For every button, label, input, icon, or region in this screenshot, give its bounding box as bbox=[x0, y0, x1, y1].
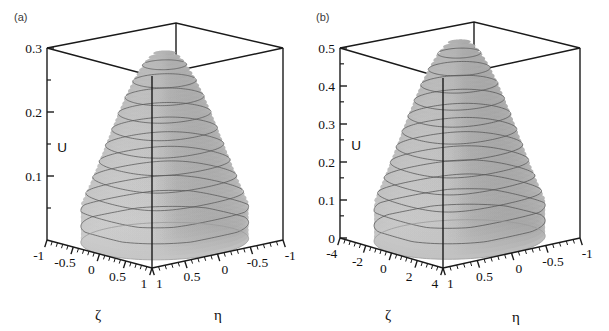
axis-tick-label: -1 bbox=[285, 248, 296, 263]
u-axis-label: U bbox=[57, 140, 67, 155]
axis-tick-label: 1 bbox=[140, 276, 147, 291]
svg-text:0.2: 0.2 bbox=[25, 105, 42, 120]
svg-text:0: 0 bbox=[328, 231, 335, 246]
axis-tick-label: 0 bbox=[88, 262, 95, 277]
panel-b-plot: 00.10.20.30.40.5U-4-2024ζ10.50-0.5-1η bbox=[304, 0, 609, 331]
axis-tick-label: 0 bbox=[221, 262, 228, 277]
axis-tick-label: 2 bbox=[406, 269, 413, 284]
axis-tick-label: -4 bbox=[326, 246, 337, 261]
svg-text:0.1: 0.1 bbox=[318, 193, 335, 208]
axis-tick-label: 0.5 bbox=[476, 269, 493, 284]
axis-tick-label: 0.5 bbox=[184, 269, 201, 284]
axis-tick-label: 1 bbox=[156, 276, 163, 291]
floor-axis-label: ζ bbox=[385, 307, 391, 323]
figure-root: (a) 0.10.20.3U-1-0.500.51ζ10.50-0.5-1η (… bbox=[0, 0, 609, 331]
svg-text:0.5: 0.5 bbox=[318, 41, 335, 56]
u-axis-label: U bbox=[351, 138, 361, 153]
svg-text:0.2: 0.2 bbox=[318, 155, 335, 170]
svg-text:0.3: 0.3 bbox=[25, 41, 42, 56]
axis-tick-label: -1 bbox=[33, 248, 44, 263]
svg-text:0.3: 0.3 bbox=[318, 117, 335, 132]
floor-axis-label: ζ bbox=[95, 307, 101, 323]
panel-b: (b) 00.10.20.30.40.5U-4-2024ζ10.50-0.5-1… bbox=[304, 0, 609, 331]
axis-tick-label: -1 bbox=[582, 246, 593, 261]
axis-tick-label: 0 bbox=[380, 261, 387, 276]
axis-tick-label: 4 bbox=[431, 276, 438, 291]
panel-a: (a) 0.10.20.3U-1-0.500.51ζ10.50-0.5-1η bbox=[0, 0, 305, 331]
axis-tick-label: -0.5 bbox=[247, 255, 269, 270]
axis-tick-label: -2 bbox=[352, 254, 363, 269]
axis-tick-label: -0.5 bbox=[54, 255, 76, 270]
axis-tick-label: 0.5 bbox=[109, 269, 126, 284]
axis-tick-label: 1 bbox=[447, 276, 454, 291]
floor-axis-label: η bbox=[512, 309, 520, 325]
axis-tick-label: -0.5 bbox=[542, 254, 564, 269]
svg-text:0.4: 0.4 bbox=[318, 79, 335, 94]
axis-tick-label: 0 bbox=[515, 261, 522, 276]
svg-text:0.1: 0.1 bbox=[25, 169, 42, 184]
panel-a-plot: 0.10.20.3U-1-0.500.51ζ10.50-0.5-1η bbox=[0, 0, 305, 331]
floor-axis-label: η bbox=[214, 307, 222, 323]
